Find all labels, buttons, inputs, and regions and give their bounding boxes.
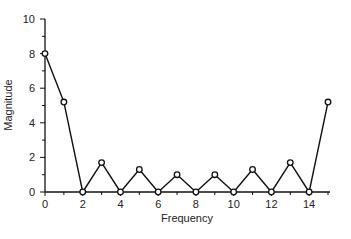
data-point-marker	[250, 167, 256, 173]
data-point-marker	[287, 160, 293, 166]
y-axis-label: Magnitude	[2, 79, 14, 130]
data-point-marker	[155, 189, 161, 195]
data-point-marker	[193, 189, 199, 195]
data-series	[42, 51, 331, 195]
y-tick-label: 4	[29, 117, 35, 129]
y-tick-label: 2	[29, 151, 35, 163]
x-tick-label: 6	[155, 198, 161, 210]
axes: 024681012140246810	[23, 13, 330, 210]
data-point-marker	[118, 189, 124, 195]
x-tick-label: 4	[117, 198, 123, 210]
data-point-marker	[137, 167, 143, 173]
data-point-marker	[306, 189, 312, 195]
chart: 024681012140246810 Frequency Magnitude	[0, 0, 351, 239]
x-tick-label: 2	[80, 198, 86, 210]
x-tick-label: 12	[265, 198, 277, 210]
y-tick-label: 6	[29, 82, 35, 94]
y-tick-label: 8	[29, 48, 35, 60]
x-tick-label: 8	[193, 198, 199, 210]
x-tick-label: 14	[303, 198, 315, 210]
x-axis-label: Frequency	[161, 212, 213, 224]
data-point-marker	[212, 172, 218, 178]
x-tick-label: 0	[42, 198, 48, 210]
data-point-marker	[325, 99, 331, 105]
data-point-marker	[269, 189, 275, 195]
y-tick-label: 10	[23, 13, 35, 25]
data-point-marker	[231, 189, 237, 195]
data-point-marker	[99, 160, 105, 166]
data-point-marker	[80, 189, 86, 195]
data-line	[45, 54, 328, 192]
x-tick-label: 10	[228, 198, 240, 210]
data-point-marker	[61, 99, 67, 105]
y-tick-label: 0	[29, 186, 35, 198]
data-point-marker	[42, 51, 48, 57]
data-point-marker	[174, 172, 180, 178]
